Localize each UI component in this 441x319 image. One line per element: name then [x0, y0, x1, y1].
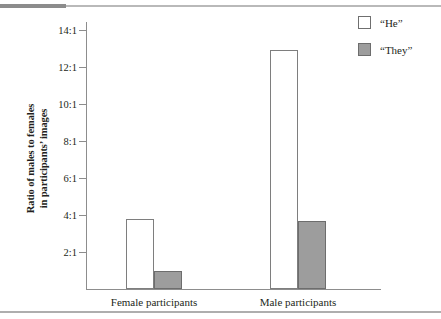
x-axis-label-maleparticipants: Male participants	[260, 296, 337, 308]
y-tick-4-1: 4:1	[86, 215, 87, 216]
bar-chart-figure: Ratio of males to females in participant…	[0, 8, 441, 310]
legend-item-they: “They”	[358, 43, 438, 56]
y-axis-line	[86, 22, 87, 290]
y-tick-10-1: 10:1	[86, 104, 87, 105]
plot-area: 2:14:16:18:110:112:114:1 Female particip…	[86, 22, 381, 290]
y-axis-title-line-1: Ratio of males to females	[25, 64, 38, 254]
page-bottom-rule	[0, 311, 441, 313]
y-tick-mark	[79, 30, 86, 31]
y-tick-14-1: 14:1	[86, 30, 87, 31]
y-tick-2-1: 2:1	[86, 252, 87, 253]
bar-maleparticipants-they	[298, 221, 326, 289]
y-tick-mark	[79, 252, 86, 253]
legend-swatch-they-icon	[358, 43, 371, 56]
y-tick-mark	[79, 104, 86, 105]
legend-swatch-he-icon	[358, 16, 371, 29]
page-top-rule	[0, 5, 441, 7]
bar-femaleparticipants-they	[154, 271, 182, 290]
y-tick-label: 4:1	[64, 210, 77, 221]
bar-maleparticipants-he	[270, 50, 298, 289]
legend-label-he: “He”	[380, 17, 403, 29]
chart-legend: “He” “They”	[358, 16, 438, 70]
y-tick-6-1: 6:1	[86, 178, 87, 179]
y-tick-8-1: 8:1	[86, 141, 87, 142]
y-tick-12-1: 12:1	[86, 67, 87, 68]
y-tick-label: 10:1	[58, 99, 77, 110]
y-axis-title-line-2: in participants’ images	[37, 64, 50, 254]
y-tick-label: 6:1	[64, 173, 77, 184]
legend-label-they: “They”	[380, 44, 412, 56]
y-tick-label: 8:1	[64, 136, 77, 147]
y-tick-mark	[79, 67, 86, 68]
y-axis-title: Ratio of males to females in participant…	[25, 64, 50, 254]
x-axis-line	[86, 289, 381, 290]
y-tick-mark	[79, 215, 86, 216]
y-tick-label: 12:1	[58, 62, 77, 73]
y-tick-mark	[79, 141, 86, 142]
y-tick-label: 2:1	[64, 247, 77, 258]
legend-item-he: “He”	[358, 16, 438, 29]
bar-femaleparticipants-he	[126, 219, 154, 289]
y-tick-mark	[79, 178, 86, 179]
x-axis-label-femaleparticipants: Female participants	[111, 296, 197, 308]
y-tick-label: 14:1	[58, 25, 77, 36]
